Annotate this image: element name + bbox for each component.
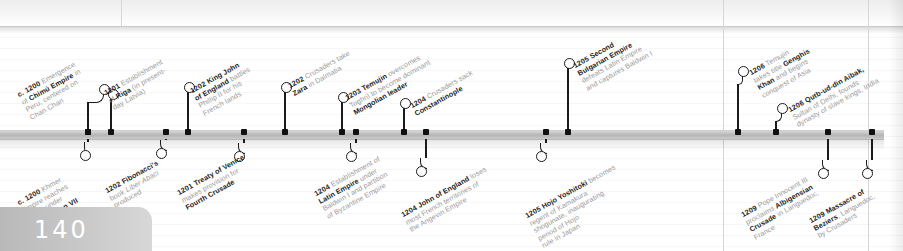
leader-line xyxy=(187,90,189,129)
leader-knob xyxy=(818,168,829,179)
timeline-entry-above: 1202 King Johnof England battlesPhillip … xyxy=(189,58,260,118)
page-number: 140 xyxy=(34,216,89,244)
column-divider-top xyxy=(723,0,724,26)
timeline-entry-below: 1209 Pope Innocent IIIproclaims Albigens… xyxy=(740,174,825,242)
timeline-marker xyxy=(423,129,429,135)
timeline-marker xyxy=(825,129,831,135)
timeline-marker xyxy=(543,129,549,135)
leader-line xyxy=(567,66,569,129)
leader-line xyxy=(425,139,427,158)
timeline-entry-above: 1202 Crusaders takeZara in Dalmatia xyxy=(287,50,356,98)
leader-knob xyxy=(346,151,357,162)
timeline-marker xyxy=(185,129,191,135)
timeline-entry-below: 1204 John of England losesmost French te… xyxy=(400,165,497,234)
leader-line xyxy=(775,121,777,129)
leader-knob xyxy=(862,168,873,179)
timeline-entry-below: 1201 Treaty of Venicemakes provision for… xyxy=(176,154,254,213)
column-divider-top xyxy=(121,0,122,26)
timeline-marker xyxy=(85,129,91,135)
timeline-entry-above: c. 1200 Emergenceof Chimú Empire inPeru,… xyxy=(16,60,91,122)
leader-knob xyxy=(80,150,91,161)
timeline-entry-below: 1202 Fibonacci'sbook Liber Abaciproduced xyxy=(104,159,168,210)
timeline-marker xyxy=(241,129,247,135)
timeline-page: c. 1200 Emergenceof Chimú Empire inPeru,… xyxy=(0,0,903,251)
leader-line xyxy=(87,102,89,129)
timeline-entry-above: 1206 Temujintakes title GenghisKhan and … xyxy=(748,39,820,100)
leader-line xyxy=(403,106,405,129)
timeline-marker xyxy=(353,129,359,135)
page-top-shadow xyxy=(0,27,903,34)
leader-line xyxy=(341,100,343,129)
leader-line xyxy=(737,84,739,129)
timeline-marker xyxy=(735,129,741,135)
timeline-marker xyxy=(869,129,875,135)
leader-line xyxy=(827,139,829,160)
timeline-entry-below: 1205 Hojo Yoshitoki becomesregent of Kam… xyxy=(524,164,634,251)
leader-line xyxy=(871,139,873,160)
timeline-marker xyxy=(339,129,345,135)
timeline-marker xyxy=(108,129,114,135)
leader-knob xyxy=(156,148,167,159)
timeline-marker xyxy=(401,129,407,135)
leader-knob xyxy=(777,103,788,114)
timeline-marker xyxy=(773,129,779,135)
timeline-entry-above: 1201 Establishmentof Riga (in present-da… xyxy=(103,58,173,112)
timeline-bar-shadow xyxy=(0,139,884,151)
timeline-marker xyxy=(565,129,571,135)
timeline-marker xyxy=(163,129,169,135)
leader-knob xyxy=(536,151,547,162)
leader-line xyxy=(284,90,286,129)
page-top-band xyxy=(0,0,903,27)
leader-knob xyxy=(416,166,427,177)
timeline-entry-below: 1204 Establishment ofLatin Empire underB… xyxy=(313,155,394,221)
leader-knob xyxy=(738,66,749,77)
page-number-tab: 140 xyxy=(0,207,152,251)
timeline-marker xyxy=(282,129,288,135)
page-right-edge-shadow xyxy=(889,0,903,251)
column-divider xyxy=(723,0,724,251)
timeline-entry-above: 1205 SecondBulgarian Empiredefeats Latin… xyxy=(572,27,654,93)
